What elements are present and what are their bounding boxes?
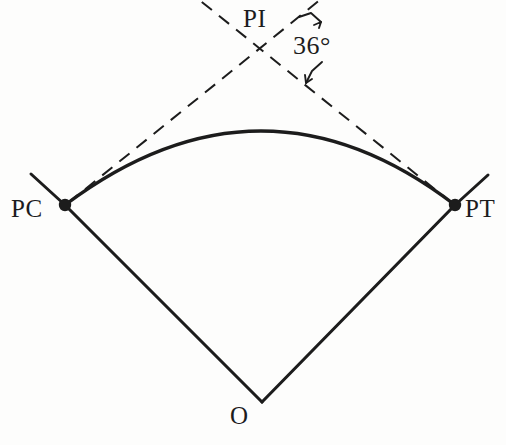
label-pc: PC bbox=[11, 196, 43, 221]
angle-arrowhead-upper bbox=[314, 22, 321, 28]
angle-arrow-upper bbox=[299, 13, 321, 22]
radius-line-o-pt bbox=[262, 205, 455, 402]
label-pt: PT bbox=[465, 196, 495, 221]
angle-arrow-lower bbox=[306, 62, 322, 83]
point-marker-pt bbox=[449, 199, 461, 211]
label-center-o: O bbox=[230, 403, 249, 428]
label-pi: PI bbox=[243, 6, 266, 31]
diagram-canvas bbox=[0, 0, 506, 445]
point-marker-pc bbox=[59, 199, 71, 211]
circular-curve-arc bbox=[65, 131, 455, 205]
radius-line-o-pc bbox=[65, 205, 262, 402]
curve-diagram: PC PT PI O 36° bbox=[0, 0, 506, 445]
label-deflection-angle: 36° bbox=[293, 33, 331, 59]
